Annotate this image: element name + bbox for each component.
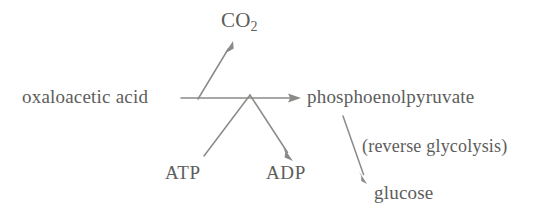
- co2-formula-text: CO: [221, 8, 251, 32]
- arrow-atp-to-adp: [204, 95, 293, 161]
- pathway-diagram: oxaloacetic acid CO2 phosphoenolpyruvate…: [0, 0, 558, 215]
- node-label-glucose: glucose: [374, 183, 433, 202]
- arrow-to-co2: [198, 41, 234, 99]
- node-label-adp: ADP: [266, 163, 306, 182]
- annotation-reverse-glycolysis: (reverse glycolysis): [362, 137, 507, 155]
- node-label-co2: CO2: [221, 10, 258, 31]
- node-label-phosphoenolpyruvate: phosphoenolpyruvate: [307, 87, 474, 106]
- co2-subscript: 2: [251, 19, 258, 34]
- node-label-oxaloacetic-acid: oxaloacetic acid: [22, 87, 148, 106]
- node-label-atp: ATP: [165, 163, 201, 182]
